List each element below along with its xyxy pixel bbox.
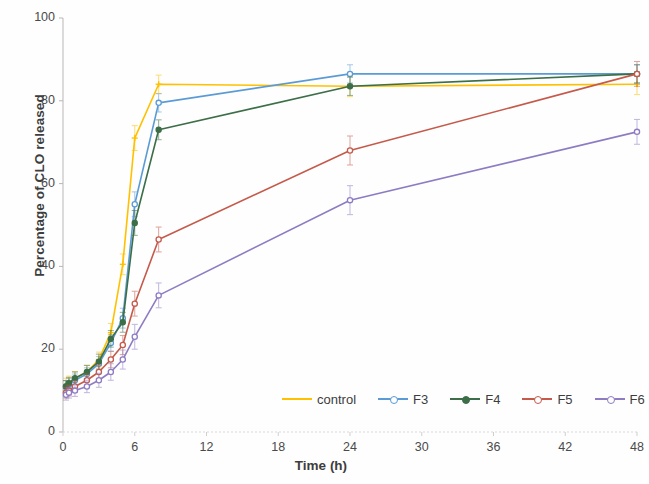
data-point — [108, 336, 113, 341]
legend-swatch-icon — [282, 393, 312, 405]
series-F3 — [63, 65, 640, 392]
data-point — [132, 220, 137, 225]
data-point — [156, 127, 161, 132]
x-tick-label: 18 — [258, 440, 298, 454]
data-point — [347, 71, 352, 76]
series-line — [66, 74, 637, 387]
data-point — [132, 202, 137, 207]
legend-swatch-icon — [378, 393, 408, 405]
x-axis-label: Time (h) — [0, 458, 642, 473]
series-line — [66, 74, 637, 387]
legend-swatch-icon — [522, 393, 552, 405]
data-point — [120, 342, 125, 347]
y-tick-label: 100 — [21, 10, 55, 24]
legend-label: control — [317, 392, 356, 407]
legend-item-F4[interactable]: F4 — [450, 392, 500, 407]
x-tick-label: 30 — [402, 440, 442, 454]
x-tick-label: 42 — [545, 440, 585, 454]
data-point — [156, 237, 161, 242]
data-point — [96, 359, 101, 364]
series-line — [66, 74, 637, 393]
legend-item-control[interactable]: control — [282, 392, 356, 407]
y-tick-label: 20 — [21, 341, 55, 355]
series-control — [63, 74, 640, 391]
series-F4 — [63, 65, 640, 392]
data-point — [132, 301, 137, 306]
legend-swatch-icon — [450, 393, 480, 405]
data-point — [132, 334, 137, 339]
data-point — [156, 100, 161, 105]
x-tick-label: 24 — [330, 440, 370, 454]
data-point — [347, 148, 352, 153]
data-point — [156, 293, 161, 298]
x-tick-label: 36 — [474, 440, 514, 454]
data-point — [634, 129, 639, 134]
data-point — [120, 357, 125, 362]
x-tick-label: 48 — [617, 440, 649, 454]
data-point — [108, 357, 113, 362]
legend-swatch-icon — [595, 393, 625, 405]
legend-label: F4 — [485, 392, 500, 407]
legend-label: F6 — [630, 392, 645, 407]
x-tick-label: 0 — [43, 440, 83, 454]
data-point — [72, 388, 77, 393]
data-point — [347, 84, 352, 89]
data-point — [634, 71, 639, 76]
data-point — [66, 390, 71, 395]
y-tick-label: 60 — [21, 176, 55, 190]
x-tick-label: 6 — [115, 440, 155, 454]
x-tick-label: 12 — [187, 440, 227, 454]
legend-item-F3[interactable]: F3 — [378, 392, 428, 407]
y-tick-label: 0 — [21, 424, 55, 438]
data-point — [96, 378, 101, 383]
legend-item-F6[interactable]: F6 — [595, 392, 645, 407]
data-point — [108, 369, 113, 374]
series-F6 — [63, 119, 640, 400]
series-F5 — [63, 61, 640, 398]
chart-legend: controlF3F4F5F6 — [282, 389, 649, 409]
data-point — [84, 384, 89, 389]
data-point — [72, 376, 77, 381]
legend-label: F5 — [557, 392, 572, 407]
series-line — [66, 132, 637, 395]
data-point — [347, 198, 352, 203]
legend-item-F5[interactable]: F5 — [522, 392, 572, 407]
y-tick-label: 40 — [21, 258, 55, 272]
data-point — [120, 320, 125, 325]
y-tick-label: 80 — [21, 93, 55, 107]
legend-label: F3 — [413, 392, 428, 407]
